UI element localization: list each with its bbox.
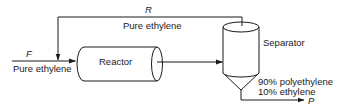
separator-label: Separator xyxy=(263,38,305,48)
product-symbol-label: P xyxy=(308,96,314,106)
feed-symbol-label: F xyxy=(26,49,32,59)
feed-composition-label: Pure ethylene xyxy=(13,64,72,74)
product-composition-line2: 10% ethylene xyxy=(258,87,316,97)
separator-vessel xyxy=(223,22,259,90)
recycle-symbol-label: R xyxy=(145,5,152,15)
reactor-label: Reactor xyxy=(99,57,132,67)
recycle-composition-label: Pure ethylene xyxy=(123,21,182,31)
